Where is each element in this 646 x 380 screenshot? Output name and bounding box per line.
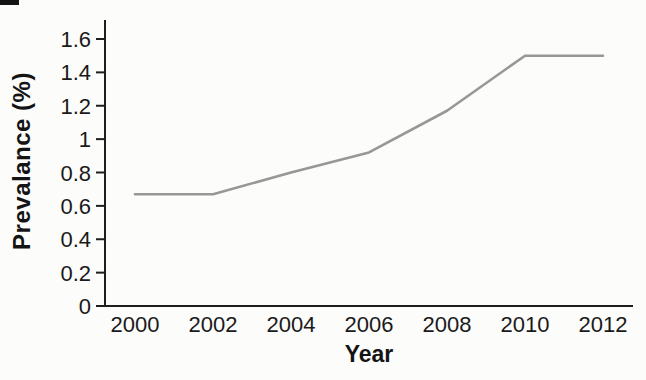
- y-tick-label: 1.6: [60, 27, 91, 52]
- x-tick-label: 2012: [579, 312, 628, 337]
- x-tick-label: 2010: [501, 312, 550, 337]
- x-axis-title: Year: [345, 341, 394, 368]
- y-tick-label: 1.2: [60, 94, 91, 119]
- y-tick-label: 0.8: [60, 161, 91, 186]
- y-axis-title: Prevalance (%): [8, 72, 36, 250]
- y-tick-label: 0.6: [60, 194, 91, 219]
- tick-labels: 00.20.40.60.811.21.41.620002002200420062…: [60, 27, 627, 337]
- y-tick-label: 0.4: [60, 227, 91, 252]
- x-tick-label: 2004: [267, 312, 316, 337]
- x-tick-label: 2000: [111, 312, 160, 337]
- line-chart: 00.20.40.60.811.21.41.620002002200420062…: [0, 0, 646, 380]
- prevalence-line: [135, 56, 603, 195]
- chart-figure: 00.20.40.60.811.21.41.620002002200420062…: [0, 0, 646, 380]
- y-tick-label: 1.4: [60, 60, 91, 85]
- data-series: [135, 56, 603, 195]
- y-tick-label: 0.2: [60, 261, 91, 286]
- axes: [96, 20, 633, 306]
- x-tick-label: 2006: [345, 312, 394, 337]
- y-tick-label: 0: [79, 294, 91, 319]
- y-tick-label: 1: [79, 127, 91, 152]
- x-tick-label: 2008: [423, 312, 472, 337]
- x-tick-label: 2002: [189, 312, 238, 337]
